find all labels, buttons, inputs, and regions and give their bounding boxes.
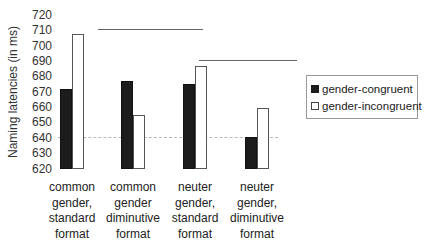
reference-line-common <box>98 29 203 30</box>
bar-incongruent-3 <box>195 66 207 169</box>
bar-chart: Naming latencies (in ms) 720 710 700 690… <box>0 0 433 241</box>
y-tick: 700 <box>26 40 52 52</box>
category-label-4: neuter gender, diminutive format <box>222 180 292 241</box>
y-tick: 720 <box>26 9 52 21</box>
black-square-icon <box>311 85 319 93</box>
bar-incongruent-2 <box>133 115 145 169</box>
y-tick: 680 <box>26 70 52 82</box>
bar-congruent-3 <box>183 84 195 169</box>
bar-congruent-2 <box>121 81 133 169</box>
y-tick: 670 <box>26 86 52 98</box>
category-label-2: common gender diminutive format <box>98 180 168 241</box>
y-axis-label: Naming latencies (in ms) <box>6 28 20 158</box>
category-label-1: common gender, standard format <box>37 180 107 241</box>
y-tick: 690 <box>26 55 52 67</box>
legend: gender-congruent gender-incongruent <box>306 75 418 119</box>
bar-congruent-1 <box>60 89 72 169</box>
reference-line-neuter <box>199 60 297 61</box>
white-square-icon <box>311 102 319 110</box>
legend-item-congruent: gender-congruent <box>311 83 413 95</box>
bar-congruent-4 <box>245 137 257 169</box>
bar-incongruent-1 <box>72 34 84 169</box>
y-tick: 630 <box>26 147 52 159</box>
y-tick: 660 <box>26 101 52 113</box>
y-tick: 710 <box>26 24 52 36</box>
legend-item-incongruent: gender-incongruent <box>311 100 422 112</box>
y-tick: 640 <box>26 132 52 144</box>
bar-incongruent-4 <box>257 108 269 169</box>
category-label-3: neuter gender, standard format <box>160 180 230 241</box>
y-tick: 650 <box>26 116 52 128</box>
y-tick: 620 <box>26 163 52 175</box>
